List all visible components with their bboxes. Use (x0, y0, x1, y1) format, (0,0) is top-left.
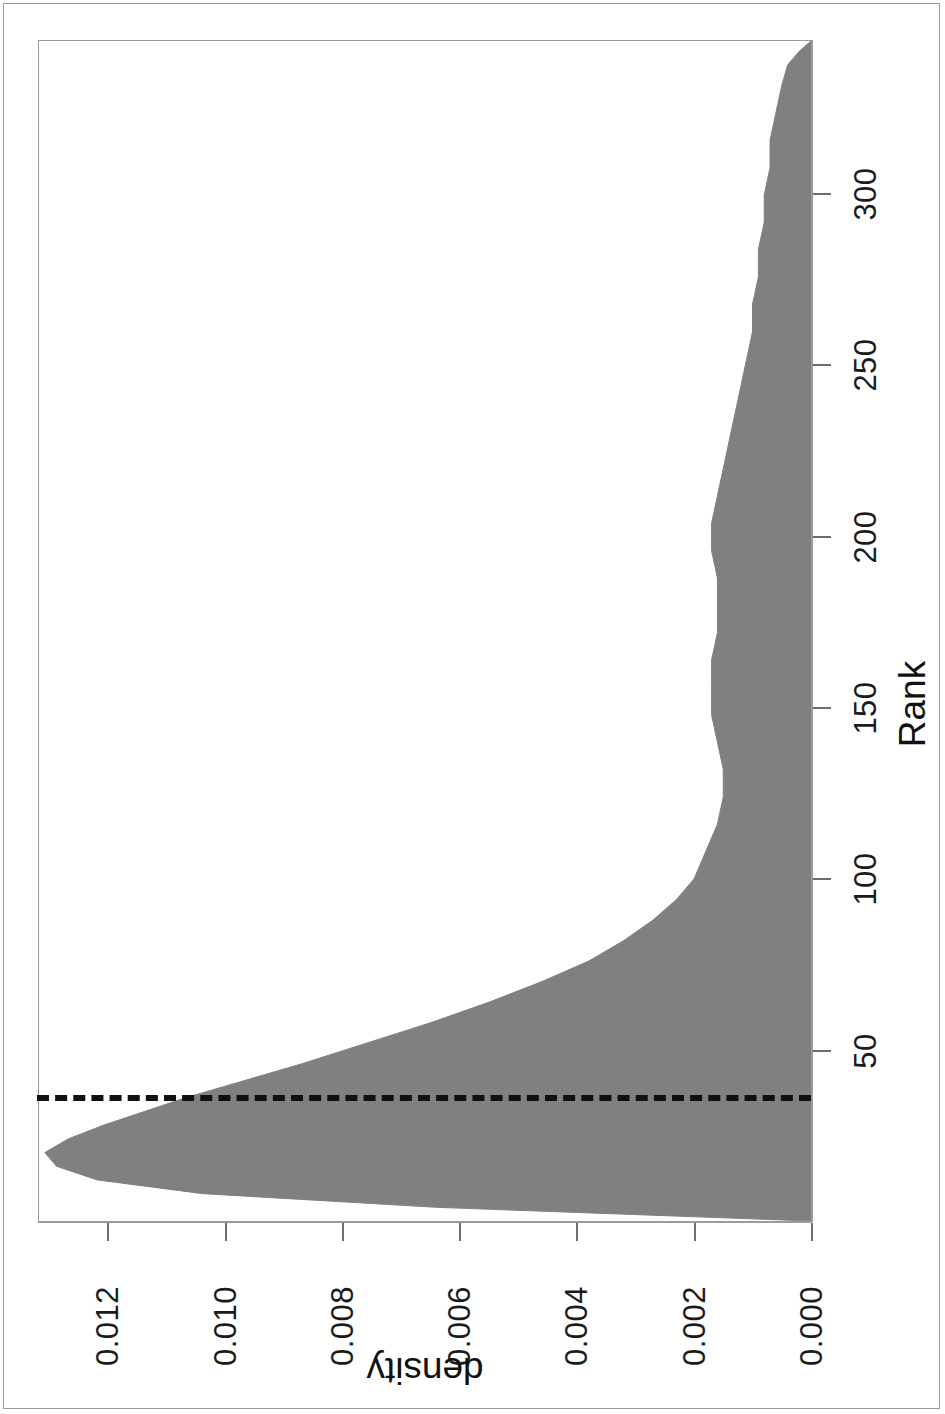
rank-axis-title: Rank (892, 661, 934, 747)
density-axis-line (38, 1222, 812, 1223)
rank-tick-label: 300 (848, 168, 884, 221)
density-tick (576, 1223, 578, 1241)
density-tick-label: 0.008 (325, 1286, 361, 1366)
density-tick-label: 0.010 (208, 1286, 244, 1366)
density-tick (811, 1223, 813, 1241)
density-tick (225, 1223, 227, 1241)
rank-tick (813, 193, 831, 195)
page-frame: 0.0000.0020.0040.0060.0080.0100.012 dens… (3, 3, 940, 1409)
rank-tick (813, 364, 831, 366)
rank-tick-label: 250 (848, 339, 884, 392)
rank-tick-label: 200 (848, 510, 884, 563)
rank-tick (813, 707, 831, 709)
density-curve (45, 41, 811, 1221)
rank-axis: 50100150200250300 (812, 40, 945, 1222)
rank-tick (813, 878, 831, 880)
rank-tick-label: 150 (848, 681, 884, 734)
plot-area (38, 40, 812, 1222)
rank-tick-label: 100 (848, 853, 884, 906)
density-tick (694, 1223, 696, 1241)
density-tick-label: 0.002 (677, 1286, 713, 1366)
density-tick (459, 1223, 461, 1241)
density-tick (107, 1223, 109, 1241)
rank-tick (813, 536, 831, 538)
density-tick (342, 1223, 344, 1241)
density-tick-label: 0.000 (794, 1286, 830, 1366)
reference-dashed-line (37, 1095, 811, 1101)
rank-tick (813, 1050, 831, 1052)
density-axis-title: density (366, 1349, 483, 1391)
density-plot-figure: 0.0000.0020.0040.0060.0080.0100.012 dens… (4, 4, 945, 1414)
density-tick-label: 0.012 (90, 1286, 126, 1366)
density-tick-label: 0.004 (559, 1286, 595, 1366)
density-area-series (39, 41, 811, 1221)
rank-tick-label: 50 (848, 1033, 884, 1068)
rank-axis-line (812, 40, 813, 1222)
